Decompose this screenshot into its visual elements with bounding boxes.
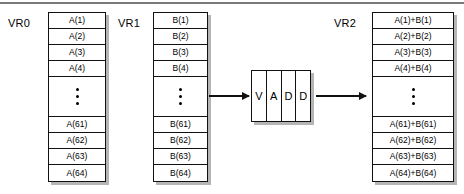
register-cell: A(2)	[49, 29, 105, 45]
register-cell: A(64)	[49, 165, 105, 181]
unit-cell-d1: D	[282, 71, 297, 121]
top-divider-rule	[0, 2, 464, 4]
register-cell: A(1)+B(1)	[373, 13, 453, 29]
ellipsis-dot	[76, 88, 79, 91]
ellipsis-dot	[76, 95, 79, 98]
register-cell: B(2)	[154, 29, 207, 45]
register-cell: A(64)+B(64)	[373, 165, 453, 181]
diagram-canvas: VR0 A(1) A(2) A(3) A(4) A(61) A(62) A(63…	[0, 0, 464, 194]
register-cell: B(61)	[154, 117, 207, 133]
arrow-unit-to-result	[316, 95, 366, 97]
register-cell: A(3)+B(3)	[373, 45, 453, 61]
register-box-vr2: A(1)+B(1) A(2)+B(2) A(3)+B(3) A(4)+B(4) …	[372, 12, 454, 182]
register-cell: A(4)+B(4)	[373, 61, 453, 77]
register-cell: A(63)	[49, 149, 105, 165]
vector-add-unit: V A D D	[251, 70, 311, 122]
ellipsis-dot	[412, 88, 415, 91]
register-cell: B(3)	[154, 45, 207, 61]
register-cell: A(3)	[49, 45, 105, 61]
ellipsis-dot	[412, 95, 415, 98]
register-cell: A(2)+B(2)	[373, 29, 453, 45]
register-cell: B(4)	[154, 61, 207, 77]
register-box-vr0: A(1) A(2) A(3) A(4) A(61) A(62) A(63) A(…	[48, 12, 106, 182]
unit-cell-d2: D	[296, 71, 310, 121]
register-cell: B(1)	[154, 13, 207, 29]
register-cell: A(62)+B(62)	[373, 133, 453, 149]
register-cell-ellipsis	[154, 77, 207, 117]
ellipsis-dot	[179, 95, 182, 98]
register-cell-ellipsis	[373, 77, 453, 117]
register-cell: A(61)	[49, 117, 105, 133]
register-cell: B(63)	[154, 149, 207, 165]
unit-cell-a: A	[267, 71, 282, 121]
register-cell: A(1)	[49, 13, 105, 29]
ellipsis-dot	[412, 102, 415, 105]
register-cell-ellipsis	[49, 77, 105, 117]
register-cell: A(4)	[49, 61, 105, 77]
register-label-vr0: VR0	[8, 18, 30, 29]
register-cell: A(63)+B(63)	[373, 149, 453, 165]
ellipsis-dot	[179, 88, 182, 91]
register-box-vr1: B(1) B(2) B(3) B(4) B(61) B(62) B(63) B(…	[153, 12, 208, 182]
arrow-operands-to-unit	[209, 95, 249, 97]
register-label-vr1: VR1	[118, 18, 140, 29]
register-cell: B(64)	[154, 165, 207, 181]
register-cell: A(61)+B(61)	[373, 117, 453, 133]
register-cell: B(62)	[154, 133, 207, 149]
ellipsis-dot	[179, 102, 182, 105]
register-cell: A(62)	[49, 133, 105, 149]
ellipsis-dot	[76, 102, 79, 105]
register-label-vr2: VR2	[334, 18, 356, 29]
unit-cell-v: V	[252, 71, 267, 121]
